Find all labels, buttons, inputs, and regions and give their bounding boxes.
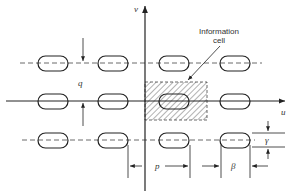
gamma-label: γ [265, 135, 269, 145]
v-axis-label: v [134, 4, 138, 14]
signal-cells [38, 56, 250, 148]
annotation-line1: Information [199, 27, 239, 36]
u-axis-label: u [281, 107, 286, 117]
information-cell-diagram: u v Information cell q p β γ [0, 0, 292, 191]
q-label: q [78, 78, 83, 88]
p-label: p [154, 161, 160, 171]
beta-label: β [230, 161, 236, 171]
annotation-line2: cell [213, 36, 225, 45]
